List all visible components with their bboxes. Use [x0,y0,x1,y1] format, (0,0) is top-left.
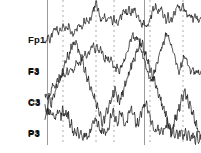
gridlines-group [63,0,183,145]
channel-label-0-top: Fp1 [28,35,46,46]
channel-label-3: P3 O1 [28,107,41,153]
channel-label-1-top: F3 [28,66,41,77]
eeg-traces-group [45,1,201,145]
channel-label-3-top: P3 [28,128,41,139]
eeg-trace-fp1-f3 [45,1,201,44]
eeg-screenshot: Fp1 F3 F3 C3 C3 P3 P3 O1 [0,0,201,153]
eeg-trace-f3-c3 [45,33,201,120]
eeg-trace-p3-o1 [45,101,201,145]
eeg-trace-c3-p3 [45,39,201,140]
channel-label-2-top: C3 [28,97,41,108]
